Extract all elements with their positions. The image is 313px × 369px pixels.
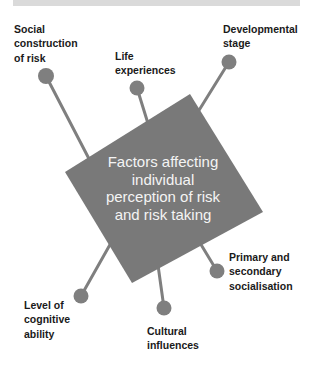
factor-label-line: cognitive (24, 312, 70, 327)
factor-label-line: socialisation (229, 279, 293, 294)
central-concept-label: Factors affecting individual perception … (88, 153, 238, 224)
node-dot-developmental-stage (222, 55, 237, 70)
factor-label-developmental-stage: Developmental stage (223, 22, 298, 51)
central-concept-line: Factors affecting (88, 153, 238, 171)
factor-label-line: influences (147, 338, 199, 353)
factor-label-line: ability (24, 327, 70, 342)
factor-label-line: Level of (24, 298, 70, 313)
factor-label-line: stage (223, 36, 298, 51)
central-concept-line: perception of risk (88, 188, 238, 206)
factor-label-social-construction: Social construction of risk (14, 22, 78, 66)
factor-label-line: Primary and (229, 250, 293, 265)
node-dot-socialisation (210, 264, 225, 279)
node-dot-cultural-influences (157, 301, 172, 316)
factor-label-line: of risk (14, 51, 78, 66)
factor-label-line: construction (14, 36, 78, 51)
factor-label-line: Social (14, 22, 78, 37)
central-concept-line: and risk taking (88, 206, 238, 224)
factor-label-life-experiences: Life experiences (115, 49, 176, 78)
factor-label-cultural-influences: Cultural influences (147, 324, 199, 353)
node-dot-social-construction (38, 68, 54, 84)
factor-label-line: Developmental (223, 22, 298, 37)
factor-label-cognitive-ability: Level of cognitive ability (24, 298, 70, 342)
factor-label-line: experiences (115, 63, 176, 78)
factor-label-line: Cultural (147, 324, 199, 339)
node-dot-life-experiences (130, 81, 145, 96)
factor-label-socialisation: Primary and secondary socialisation (229, 250, 293, 294)
node-dot-cognitive-ability (74, 289, 89, 304)
factor-label-line: secondary (229, 264, 293, 279)
central-concept-line: individual (88, 171, 238, 189)
factor-label-line: Life (115, 49, 176, 64)
